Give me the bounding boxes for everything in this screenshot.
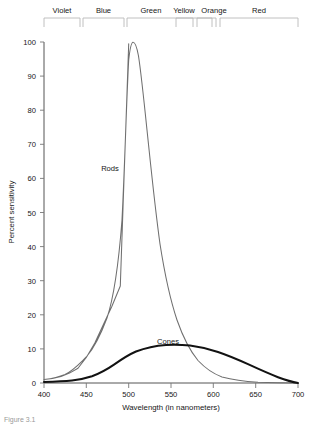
y-axis-tick-labels: 100 90 80 70 60 50 40 30 20 10 0 — [23, 38, 36, 388]
y-tick-label-40: 40 — [28, 243, 36, 252]
rods-curve-label: Rods — [101, 164, 119, 173]
color-band-label-red: Red — [252, 6, 266, 15]
color-band-label-violet: Violet — [53, 6, 73, 15]
y-tick-label-20: 20 — [28, 311, 36, 320]
color-band-bracket-yellow — [176, 18, 193, 27]
color-band-bracket-red — [220, 18, 298, 27]
color-band-brackets — [44, 18, 298, 27]
x-tick-label-700: 700 — [292, 390, 305, 399]
color-band-labels: Violet Blue Green Yellow Orange Red — [53, 6, 266, 15]
y-tick-label-0: 0 — [32, 379, 36, 388]
y-tick-label-80: 80 — [28, 106, 36, 115]
cones-curve — [44, 345, 298, 383]
x-tick-label-550: 550 — [165, 390, 178, 399]
y-axis-ticks — [40, 42, 44, 383]
color-band-bracket-blue — [83, 18, 124, 27]
x-tick-label-400: 400 — [38, 390, 51, 399]
x-axis-tick-labels: 400 450 500 550 600 650 700 — [38, 390, 305, 399]
color-band-bracket-green — [127, 18, 212, 27]
color-band-label-orange: Orange — [201, 6, 226, 15]
x-axis-ticks — [44, 383, 298, 388]
y-tick-label-30: 30 — [28, 277, 36, 286]
figure-caption: Figure 3.1 — [4, 416, 36, 424]
x-tick-label-450: 450 — [80, 390, 93, 399]
color-band-bracket-orange — [197, 18, 216, 27]
color-band-label-yellow: Yellow — [173, 6, 195, 15]
color-band-label-green: Green — [140, 6, 161, 15]
x-axis-title: Wavelength (in nanometers) — [122, 403, 220, 412]
cones-curve-label: Cones — [157, 337, 179, 346]
y-tick-label-90: 90 — [28, 72, 36, 81]
y-axis-title: Percent sensitivity — [7, 180, 16, 243]
y-tick-label-100: 100 — [23, 38, 36, 47]
color-band-bracket-violet — [44, 18, 80, 27]
y-tick-label-50: 50 — [28, 209, 36, 218]
y-tick-label-70: 70 — [28, 140, 36, 149]
rods-curve — [44, 42, 298, 383]
x-tick-label-600: 600 — [207, 390, 220, 399]
x-tick-label-500: 500 — [122, 390, 135, 399]
color-band-label-blue: Blue — [96, 6, 111, 15]
y-tick-label-10: 10 — [28, 345, 36, 354]
rod-cone-sensitivity-chart: Violet Blue Green Yellow Orange Red 100 … — [0, 0, 314, 425]
y-tick-label-60: 60 — [28, 174, 36, 183]
x-tick-label-650: 650 — [249, 390, 262, 399]
